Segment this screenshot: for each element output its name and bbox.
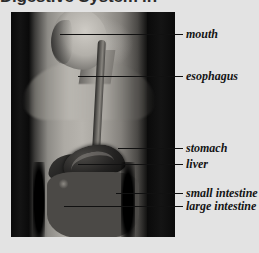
digestive-system-figure: [11, 12, 175, 237]
label-mouth: mouth: [186, 28, 218, 40]
leader-dash-liver: [175, 164, 183, 165]
abdomen-shadow-right: [121, 162, 135, 237]
label-esophagus: esophagus: [186, 70, 238, 82]
leader-dash-large-intestine: [175, 206, 183, 207]
figure-backdrop-right: [147, 12, 175, 237]
label-stomach: stomach: [186, 142, 227, 154]
leader-line-mouth: [60, 34, 175, 35]
label-large-intestine: large intestine: [186, 200, 256, 212]
leader-dash-mouth: [175, 34, 183, 35]
abdomen-shadow-left: [33, 162, 45, 237]
leader-line-stomach: [118, 148, 175, 149]
page-title-clipped: Digestive System in Motion: [0, 0, 160, 7]
label-small-intestine: small intestine: [186, 187, 258, 199]
leader-dash-stomach: [175, 148, 183, 149]
leader-dash-small-intestine: [175, 193, 183, 194]
page-title: Digestive System in Motion: [0, 0, 160, 7]
leader-line-small-intestine: [116, 193, 175, 194]
leader-line-large-intestine: [64, 206, 175, 207]
label-liver: liver: [186, 158, 208, 170]
leader-line-esophagus: [78, 76, 175, 77]
face-shadow: [51, 20, 73, 64]
leader-line-liver: [78, 164, 175, 165]
leader-dash-esophagus: [175, 76, 183, 77]
figure-backdrop-left: [11, 12, 29, 237]
